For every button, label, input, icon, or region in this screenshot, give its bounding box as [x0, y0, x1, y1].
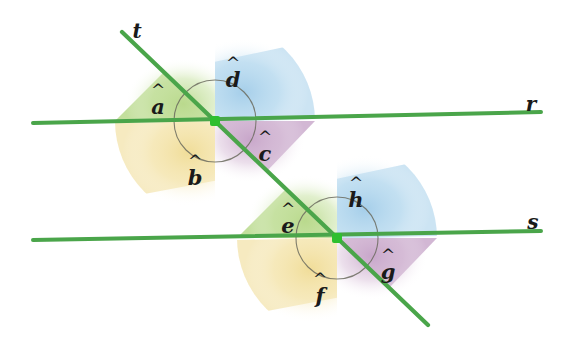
angle-letter-c: c: [258, 144, 272, 164]
angle-label-h: ^ h: [348, 178, 363, 209]
angle-letter-h: h: [348, 190, 363, 210]
vertex-dot-lower: [332, 233, 342, 243]
angle-letter-d: d: [226, 70, 241, 90]
angle-label-b: ^ b: [188, 156, 203, 187]
line-label-r: r: [526, 94, 537, 114]
angle-label-g: ^ g: [381, 250, 396, 281]
angle-label-c: ^ c: [258, 132, 272, 163]
line-label-s: s: [527, 212, 538, 232]
angle-letter-a: a: [151, 97, 165, 117]
vertex-dot-upper: [210, 116, 220, 126]
angle-letter-b: b: [188, 168, 203, 188]
angle-label-e: ^ e: [281, 204, 295, 235]
angle-letter-e: e: [281, 216, 295, 236]
diagram-canvas: [0, 0, 574, 337]
angle-label-a: ^ a: [151, 85, 165, 116]
angle-label-d: ^ d: [226, 58, 241, 89]
line-label-t: t: [132, 21, 141, 41]
geometry-diagram: t r s ^ a ^ d ^ c ^ b ^ e ^ h ^ g ^ f: [0, 0, 574, 337]
angle-letter-g: g: [381, 262, 396, 282]
angle-label-f: ^ f: [313, 274, 327, 305]
